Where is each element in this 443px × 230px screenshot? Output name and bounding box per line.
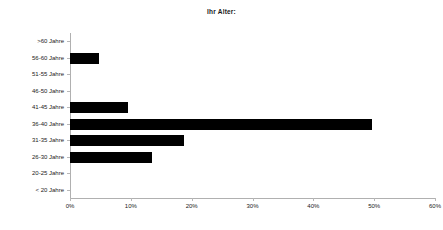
category-label: 51-55 Jahre — [0, 66, 64, 83]
x-axis-tick-label: 50% — [354, 203, 394, 209]
bar — [70, 135, 184, 146]
bar-row: 56-60 Jahre — [0, 50, 443, 67]
x-axis-tick — [131, 198, 132, 201]
x-axis-tick-label: 20% — [172, 203, 212, 209]
category-label: < 20 Jahre — [0, 182, 64, 199]
x-axis-tick — [435, 198, 436, 201]
x-axis-tick-label: 0% — [50, 203, 90, 209]
x-axis-tick — [374, 198, 375, 201]
x-axis-tick — [192, 198, 193, 201]
x-axis-tick-label: 30% — [233, 203, 273, 209]
category-label: 56-60 Jahre — [0, 50, 64, 67]
bar-row: >60 Jahre — [0, 33, 443, 50]
x-axis-tick — [70, 198, 71, 201]
category-label: 46-50 Jahre — [0, 83, 64, 100]
category-tick — [67, 74, 70, 75]
category-tick — [67, 91, 70, 92]
category-tick — [67, 173, 70, 174]
bar-row: 51-55 Jahre — [0, 66, 443, 83]
x-axis-tick-label: 60% — [415, 203, 443, 209]
bar-row: 41-45 Jahre — [0, 99, 443, 116]
bar — [70, 102, 128, 113]
category-label: >60 Jahre — [0, 33, 64, 50]
bar-row: 31-35 Jahre — [0, 132, 443, 149]
bar-row: 36-40 Jahre — [0, 116, 443, 133]
category-label: 31-35 Jahre — [0, 132, 64, 149]
bar-row: 20-25 Jahre — [0, 165, 443, 182]
x-axis-tick-label: 10% — [111, 203, 151, 209]
x-axis-tick-label: 40% — [293, 203, 333, 209]
bar — [70, 119, 372, 130]
chart-container: Ihr Alter: >60 Jahre56-60 Jahre51-55 Jah… — [0, 0, 443, 230]
bar-row: < 20 Jahre — [0, 182, 443, 199]
category-label: 36-40 Jahre — [0, 116, 64, 133]
bar — [70, 152, 152, 163]
category-tick — [67, 41, 70, 42]
category-tick — [67, 190, 70, 191]
category-label: 41-45 Jahre — [0, 99, 64, 116]
x-axis-tick — [313, 198, 314, 201]
bar — [70, 53, 99, 64]
category-label: 26-30 Jahre — [0, 149, 64, 166]
bar-row: 46-50 Jahre — [0, 83, 443, 100]
category-label: 20-25 Jahre — [0, 165, 64, 182]
bar-row: 26-30 Jahre — [0, 149, 443, 166]
chart-title: Ihr Alter: — [0, 8, 443, 16]
x-axis-tick — [253, 198, 254, 201]
